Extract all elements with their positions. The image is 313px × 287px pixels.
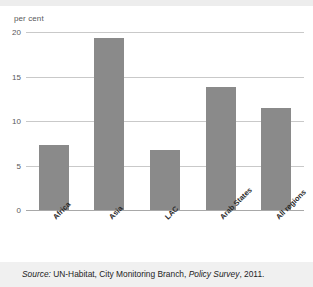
source-suffix: , 2011.: [239, 269, 264, 279]
gridline: [26, 32, 304, 33]
y-axis-tick-label: 0: [17, 206, 21, 215]
top-divider-band: [0, 0, 313, 6]
source-body: UN-Habitat, City Monitoring Branch,: [51, 269, 189, 279]
bar: [94, 38, 124, 210]
y-axis-tick-label: 15: [12, 72, 21, 81]
gridline: [26, 77, 304, 78]
y-axis-tick-label: 5: [17, 161, 21, 170]
y-axis-tick-label: 10: [12, 117, 21, 126]
bar: [150, 150, 180, 210]
y-axis-unit-label: per cent: [14, 14, 44, 23]
y-axis-tick-label: 20: [12, 28, 21, 37]
source-caption: Source: UN-Habitat, City Monitoring Bran…: [22, 269, 264, 279]
source-publication: Policy Survey: [189, 269, 240, 279]
bar: [206, 87, 236, 210]
bar: [261, 108, 291, 210]
figure-chart-percent-by-region: per cent 05101520AfricaAsiaLACArab State…: [0, 0, 313, 287]
plot-area: 05101520AfricaAsiaLACArab StatesAll regi…: [26, 32, 304, 210]
source-prefix: Source:: [22, 269, 51, 279]
